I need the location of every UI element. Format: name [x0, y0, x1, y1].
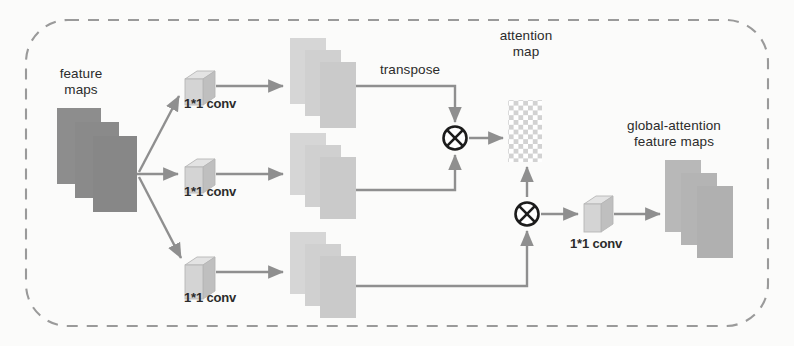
input-feature-map-stack	[57, 108, 137, 212]
label-global-attention-line1: global-attention	[604, 118, 744, 134]
transpose-edge	[356, 86, 455, 122]
multiply-operator-1	[444, 127, 467, 150]
label-attention-map-line1: attention	[478, 28, 574, 44]
label-conv-output: 1*1 conv	[552, 236, 640, 252]
label-feature-maps-line2: maps	[38, 82, 124, 98]
output-feature-map-stack	[665, 160, 733, 258]
value-edge	[356, 231, 527, 286]
input-branch-arrows	[137, 96, 181, 258]
feature-map-stack-middle	[290, 133, 356, 219]
conv-cube-output	[584, 196, 613, 232]
label-conv-middle: 1*1 conv	[166, 184, 254, 200]
conv-to-maps-arrows	[216, 86, 283, 272]
label-feature-maps-line1: feature	[38, 66, 124, 82]
diagram-canvas	[0, 0, 794, 346]
label-global-attention-feature-maps: global-attention feature maps	[604, 118, 744, 150]
label-feature-maps: feature maps	[38, 66, 124, 98]
label-conv-bottom: 1*1 conv	[166, 290, 254, 306]
feature-map-stack-top	[290, 38, 356, 128]
label-attention-map: attention map	[478, 28, 574, 60]
label-global-attention-line2: feature maps	[604, 134, 744, 150]
attention-map-grid	[508, 100, 542, 162]
label-transpose: transpose	[358, 62, 462, 78]
attention-module-diagram: feature maps 1*1 conv 1*1 conv 1*1 conv …	[0, 0, 794, 346]
feature-map-stack-bottom	[290, 232, 356, 318]
label-conv-top: 1*1 conv	[166, 96, 254, 112]
multiply-operator-2	[516, 203, 539, 226]
key-edge	[356, 155, 455, 190]
label-attention-map-line2: map	[478, 44, 574, 60]
